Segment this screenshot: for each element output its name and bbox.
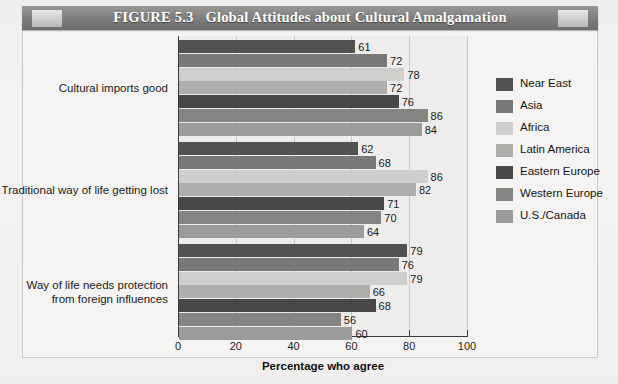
bar	[179, 54, 387, 67]
bar-value-label: 76	[402, 259, 414, 271]
x-axis-tick-label: 80	[403, 340, 415, 352]
category-label: Traditional way of life getting lost	[0, 183, 168, 197]
legend-label: Asia	[520, 99, 542, 111]
category-label-line: Cultural imports good	[0, 81, 168, 95]
legend-label: Africa	[520, 121, 549, 133]
bar-value-label: 62	[361, 143, 373, 155]
bar-value-label: 66	[373, 286, 385, 298]
bar	[179, 40, 355, 53]
legend-label: Eastern Europe	[520, 165, 600, 177]
legend-label: Near East	[520, 77, 571, 89]
bar-value-label: 71	[387, 198, 399, 210]
category-label-line: Way of life needs protection	[0, 278, 168, 292]
x-axis-tick-label: 20	[230, 340, 242, 352]
legend-label: Latin America	[520, 143, 590, 155]
bar	[179, 123, 422, 136]
category-label: Cultural imports good	[0, 81, 168, 95]
bar	[179, 225, 364, 238]
figure-number: FIGURE 5.3	[113, 9, 193, 25]
bar	[179, 170, 428, 183]
bar	[179, 244, 407, 257]
bar	[179, 109, 428, 122]
bar-value-label: 61	[358, 41, 370, 53]
legend-swatch	[496, 188, 513, 201]
category-label: Way of life needs protectionfrom foreign…	[0, 278, 168, 306]
x-axis-tick-label: 100	[458, 340, 476, 352]
bar-value-label: 86	[431, 171, 443, 183]
bar-value-label: 86	[431, 110, 443, 122]
legend-swatch	[496, 144, 513, 157]
bar-value-label: 60	[355, 328, 367, 340]
bar	[179, 95, 399, 108]
legend-swatch	[496, 122, 513, 135]
bar	[179, 142, 358, 155]
bar	[179, 183, 416, 196]
bar	[179, 327, 352, 340]
bar	[179, 156, 376, 169]
bar	[179, 272, 407, 285]
bar-value-label: 72	[390, 55, 402, 67]
figure-screenshot: FIGURE 5.3Global Attitudes about Cultura…	[0, 0, 618, 384]
bar-value-label: 70	[384, 212, 396, 224]
plot-wrapper: 020406080100 617278727686846268868271706…	[0, 30, 618, 384]
bar	[179, 313, 341, 326]
x-axis-tick-label: 40	[287, 340, 299, 352]
bar	[179, 81, 387, 94]
bar	[179, 197, 384, 210]
bar-value-label: 64	[367, 226, 379, 238]
bar	[179, 258, 399, 271]
figure-title-bar: FIGURE 5.3Global Attitudes about Cultura…	[22, 6, 598, 30]
category-label-line: from foreign influences	[0, 292, 168, 306]
x-axis-tick-label: 60	[345, 340, 357, 352]
x-axis-tick	[409, 330, 410, 337]
legend-label: U.S./Canada	[520, 209, 586, 221]
legend-swatch	[496, 166, 513, 179]
figure-title: FIGURE 5.3Global Attitudes about Cultura…	[22, 9, 598, 26]
bar-value-label: 68	[379, 300, 391, 312]
bar	[179, 285, 370, 298]
bar-value-label: 79	[410, 273, 422, 285]
bar-value-label: 84	[425, 124, 437, 136]
legend-label: Western Europe	[520, 187, 603, 199]
bar-value-label: 76	[402, 96, 414, 108]
x-axis-title: Percentage who agree	[178, 360, 468, 372]
bar-value-label: 82	[419, 184, 431, 196]
category-label-line: Traditional way of life getting lost	[0, 183, 168, 197]
legend-swatch	[496, 210, 513, 223]
bar-value-label: 79	[410, 245, 422, 257]
bar-value-label: 78	[407, 69, 419, 81]
bar	[179, 299, 376, 312]
gridline	[467, 36, 468, 336]
legend-swatch	[496, 100, 513, 113]
figure-title-text: Global Attitudes about Cultural Amalgama…	[205, 9, 506, 25]
legend-swatch	[496, 78, 513, 91]
bar-value-label: 56	[344, 314, 356, 326]
x-axis-tick-label: 0	[175, 340, 181, 352]
bar-value-label: 72	[390, 82, 402, 94]
bar	[179, 211, 381, 224]
x-axis-tick	[467, 330, 468, 337]
bar-value-label: 68	[379, 157, 391, 169]
bar	[179, 68, 404, 81]
